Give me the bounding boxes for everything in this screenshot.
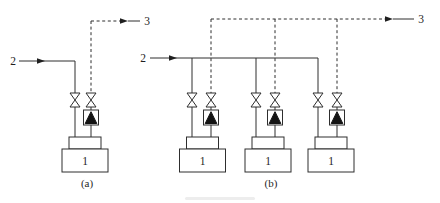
inlet-label: 2 bbox=[140, 52, 146, 64]
flow-arrow-icon bbox=[169, 55, 177, 61]
gate-valve-icon bbox=[86, 93, 96, 107]
flow-arrow-icon bbox=[385, 16, 393, 22]
relief-valve-icon bbox=[204, 110, 219, 125]
inlet-label: 2 bbox=[10, 55, 16, 67]
caption-b: (b) bbox=[265, 177, 278, 190]
gate-valve-icon bbox=[206, 93, 216, 107]
gate-valve-icon bbox=[270, 93, 280, 107]
relief-valve-icon bbox=[330, 110, 345, 125]
vessel-neck bbox=[315, 137, 347, 149]
diagram-a: 2 3 1 (a) bbox=[10, 15, 150, 190]
gate-valve-icon bbox=[332, 93, 342, 107]
caption-a: (a) bbox=[81, 177, 94, 190]
relief-valve-icon bbox=[84, 110, 99, 125]
flow-arrow-icon bbox=[120, 18, 128, 24]
scan-artifact bbox=[185, 197, 255, 200]
vessel-neck bbox=[252, 137, 284, 149]
outlet-label: 3 bbox=[418, 13, 424, 25]
vessel-label: 1 bbox=[82, 155, 88, 167]
vessel-label: 1 bbox=[328, 155, 334, 167]
gate-valve-icon bbox=[187, 93, 197, 107]
vessel-label: 1 bbox=[200, 155, 206, 167]
piping-schematic-svg: 2 3 1 (a) 2 bbox=[0, 0, 440, 203]
vessel-neck bbox=[187, 137, 219, 149]
flow-arrow-icon bbox=[37, 58, 45, 64]
gate-valve-icon bbox=[70, 93, 80, 107]
gate-valve-icon bbox=[251, 93, 261, 107]
schematic-figure: 2 3 1 (a) 2 bbox=[0, 0, 440, 203]
relief-valve-icon bbox=[268, 110, 283, 125]
vessel-label: 1 bbox=[265, 155, 271, 167]
vessel-neck bbox=[69, 137, 101, 149]
gate-valve-icon bbox=[313, 93, 323, 107]
outlet-label: 3 bbox=[144, 15, 150, 27]
diagram-b: 2 3 bbox=[140, 13, 424, 190]
